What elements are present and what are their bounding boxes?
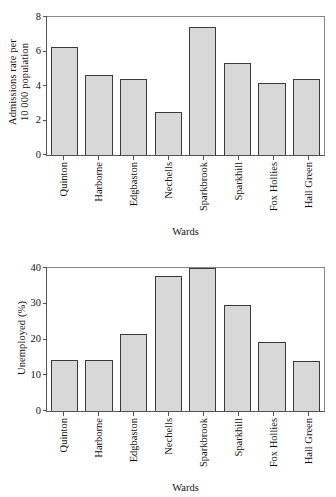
bar-sparkbrook bbox=[186, 268, 221, 411]
bar-sparkhill bbox=[220, 268, 255, 411]
x-tick bbox=[186, 156, 221, 160]
y-tick-label-30: 30 bbox=[31, 296, 42, 310]
bar-rect bbox=[51, 47, 78, 155]
x-tick-label: Hall Green bbox=[302, 418, 313, 464]
plot-area-unemployed: 0 10 20 30 40 bbox=[46, 267, 325, 412]
x-tick bbox=[151, 156, 186, 160]
x-tick-label-cell: Edgbaston bbox=[116, 162, 151, 224]
x-tick-label: Edgbaston bbox=[128, 418, 139, 462]
x-tick-label-cell: Nechells bbox=[151, 418, 186, 480]
x-tick bbox=[116, 156, 151, 160]
x-tick-label: Hall Green bbox=[302, 162, 313, 208]
bar-rect bbox=[120, 79, 147, 155]
x-tick bbox=[220, 156, 255, 160]
x-tick bbox=[46, 156, 81, 160]
y-axis-title-line2: 10 000 population bbox=[19, 43, 30, 121]
bar-rect bbox=[85, 360, 112, 411]
bar-sparkhill bbox=[220, 17, 255, 155]
y-tick-label-4: 4 bbox=[36, 79, 41, 93]
x-tick-label-cell: Quinton bbox=[46, 418, 81, 480]
bar-rect bbox=[293, 79, 320, 155]
x-tick-label: Quinton bbox=[58, 418, 69, 452]
bar-hall-green bbox=[289, 268, 324, 411]
x-tick-label: Edgbaston bbox=[128, 162, 139, 206]
x-tick bbox=[151, 412, 186, 416]
bar-sparkbrook bbox=[186, 17, 221, 155]
bar-quinton bbox=[47, 17, 82, 155]
x-tick bbox=[81, 156, 116, 160]
x-tick-label-cell: Harborne bbox=[81, 418, 116, 480]
bar-fox-hollies bbox=[255, 268, 290, 411]
x-tick bbox=[255, 412, 290, 416]
x-tick-label-cell: Edgbaston bbox=[116, 418, 151, 480]
y-tick-label-0: 0 bbox=[36, 148, 41, 162]
bar-rect bbox=[224, 305, 251, 411]
bar-harborne bbox=[82, 268, 117, 411]
x-tick bbox=[220, 412, 255, 416]
x-tick-label-cell: Fox Hollies bbox=[255, 162, 290, 224]
x-tick-label: Nechells bbox=[163, 162, 174, 199]
bar-rect bbox=[189, 268, 216, 411]
bar-rect bbox=[258, 83, 285, 155]
y-tick-label-0: 0 bbox=[36, 404, 41, 418]
bar-rect bbox=[85, 75, 112, 155]
x-tick-label: Harborne bbox=[93, 162, 104, 202]
x-tick-label: Fox Hollies bbox=[267, 162, 278, 211]
y-tick-label-40: 40 bbox=[31, 261, 42, 275]
x-tick-label: Nechells bbox=[163, 418, 174, 455]
x-tick-label-cell: Sparkhill bbox=[220, 418, 255, 480]
bar-rect bbox=[155, 276, 182, 411]
x-tick bbox=[81, 412, 116, 416]
x-tick-label-cell: Nechells bbox=[151, 162, 186, 224]
x-axis-labels-admissions: QuintonHarborneEdgbastonNechellsSparkbro… bbox=[46, 162, 325, 224]
bar-series-admissions bbox=[47, 17, 324, 155]
bar-rect bbox=[224, 63, 251, 155]
plot-area-admissions: 0 2 4 6 8 bbox=[46, 16, 325, 156]
y-tick-label-6: 6 bbox=[36, 44, 41, 58]
chart-panel-unemployed: Unemployed (%) 0 10 20 30 40 QuintonHarb… bbox=[0, 250, 336, 497]
x-tick-label: Sparkhill bbox=[232, 418, 243, 457]
x-tick-label-cell: Sparkbrook bbox=[186, 418, 221, 480]
x-tick-label-cell: Hall Green bbox=[290, 162, 325, 224]
x-tick-label: Sparkhill bbox=[232, 162, 243, 201]
bar-rect bbox=[51, 360, 78, 411]
bar-rect bbox=[120, 334, 147, 411]
x-tick bbox=[46, 412, 81, 416]
x-tick-label: Sparkbrook bbox=[197, 162, 208, 211]
x-axis-title-admissions: Wards bbox=[46, 226, 325, 237]
x-ticks-unemployed bbox=[46, 412, 325, 416]
x-axis-title-unemployed: Wards bbox=[46, 482, 325, 493]
bar-fox-hollies bbox=[255, 17, 290, 155]
bar-rect bbox=[189, 27, 216, 155]
x-tick-label: Harborne bbox=[93, 418, 104, 458]
x-ticks-admissions bbox=[46, 156, 325, 160]
bar-harborne bbox=[82, 17, 117, 155]
bar-series-unemployed bbox=[47, 268, 324, 411]
x-tick-label: Fox Hollies bbox=[267, 418, 278, 467]
y-tick-label-20: 20 bbox=[31, 332, 42, 346]
y-axis-title-unemployed: Unemployed (%) bbox=[16, 263, 28, 413]
x-tick-label-cell: Fox Hollies bbox=[255, 418, 290, 480]
x-tick bbox=[116, 412, 151, 416]
bar-rect bbox=[293, 361, 320, 411]
bar-nechells bbox=[151, 17, 186, 155]
y-tick-label-8: 8 bbox=[36, 10, 41, 24]
x-tick bbox=[255, 156, 290, 160]
x-tick-label-cell: Harborne bbox=[81, 162, 116, 224]
chart-panel-admissions: Admissions rate per10 000 population 0 2… bbox=[0, 0, 336, 250]
bar-hall-green bbox=[289, 17, 324, 155]
x-tick bbox=[186, 412, 221, 416]
x-tick-label: Sparkbrook bbox=[197, 418, 208, 467]
bar-quinton bbox=[47, 268, 82, 411]
x-tick-label: Quinton bbox=[58, 162, 69, 196]
x-tick-label-cell: Sparkhill bbox=[220, 162, 255, 224]
bar-edgbaston bbox=[116, 268, 151, 411]
bar-nechells bbox=[151, 268, 186, 411]
bar-rect bbox=[258, 342, 285, 411]
x-tick-label-cell: Quinton bbox=[46, 162, 81, 224]
x-axis-labels-unemployed: QuintonHarborneEdgbastonNechellsSparkbro… bbox=[46, 418, 325, 480]
y-tick-label-10: 10 bbox=[31, 368, 42, 382]
y-tick-label-2: 2 bbox=[36, 113, 41, 127]
bar-rect bbox=[155, 112, 182, 155]
figure: Admissions rate per10 000 population 0 2… bbox=[0, 0, 336, 497]
